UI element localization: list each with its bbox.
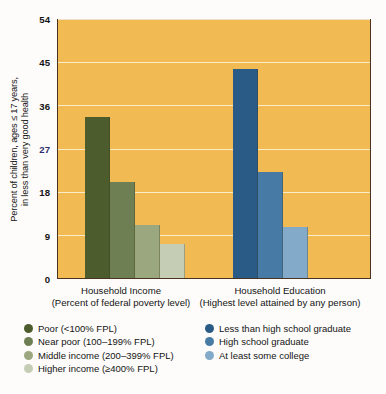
education-legend-item-1: High school graduate (196, 335, 384, 348)
y-tick-0: 0 (24, 274, 50, 285)
income-legend-label-2: Middle income (200–399% FPL) (38, 349, 174, 362)
income-legend-item-2: Middle income (200–399% FPL) (24, 349, 204, 362)
y-axis-ticks: 544536271890 (24, 19, 52, 279)
income-bar-3 (160, 244, 185, 278)
education-legend-swatch-icon-2 (205, 351, 214, 360)
gridline-45 (58, 62, 370, 63)
education-legend-label-2: At least some college (219, 349, 309, 362)
x-caption-education-sub: (Highest level attained by any person) (176, 297, 384, 309)
legend-education: Less than high school graduateHigh schoo… (196, 322, 384, 362)
gridline-36 (58, 105, 370, 106)
education-legend-label-0: Less than high school graduate (219, 322, 351, 335)
income-legend-label-0: Poor (<100% FPL) (38, 322, 117, 335)
gridline-54 (58, 19, 370, 20)
bar-group-education (233, 69, 308, 278)
income-legend-swatch-icon-0 (24, 324, 33, 333)
education-legend-swatch-icon-0 (205, 324, 214, 333)
legend-income: Poor (<100% FPL)Near poor (100–199% FPL)… (24, 322, 204, 375)
income-bar-0 (85, 117, 110, 278)
education-legend-item-0: Less than high school graduate (196, 322, 384, 335)
x-caption-income-title: Household Income (81, 285, 161, 296)
education-bar-1 (258, 172, 283, 278)
income-legend-swatch-icon-2 (24, 351, 33, 360)
income-legend-item-0: Poor (<100% FPL) (24, 322, 204, 335)
income-legend-label-3: Higher income (≥400% FPL) (38, 362, 158, 375)
plot-area (57, 19, 371, 279)
y-tick-54: 54 (24, 14, 50, 25)
income-legend-swatch-icon-3 (24, 364, 33, 373)
y-tick-9: 9 (24, 230, 50, 241)
income-legend-item-1: Near poor (100–199% FPL) (24, 335, 204, 348)
education-legend-item-2: At least some college (196, 349, 384, 362)
education-bar-0 (233, 69, 258, 278)
y-tick-18: 18 (24, 187, 50, 198)
education-legend-swatch-icon-1 (205, 337, 214, 346)
income-legend-label-1: Near poor (100–199% FPL) (38, 335, 155, 348)
y-tick-27: 27 (24, 144, 50, 155)
y-tick-45: 45 (24, 57, 50, 68)
income-bar-2 (135, 225, 160, 278)
x-caption-education-title: Household Education (234, 285, 325, 296)
education-bar-2 (283, 227, 308, 278)
chart-figure: Percent of children, ages ≤ 17 years, in… (0, 0, 386, 394)
x-caption-education: Household Education (Highest level attai… (176, 285, 384, 309)
income-legend-swatch-icon-1 (24, 337, 33, 346)
income-bar-1 (110, 182, 135, 278)
income-legend-item-3: Higher income (≥400% FPL) (24, 362, 204, 375)
bar-group-income (85, 117, 185, 278)
y-tick-36: 36 (24, 100, 50, 111)
y-axis-label-line1: Percent of children, ages ≤ 17 years, (9, 77, 19, 221)
education-legend-label-1: High school graduate (219, 335, 309, 348)
